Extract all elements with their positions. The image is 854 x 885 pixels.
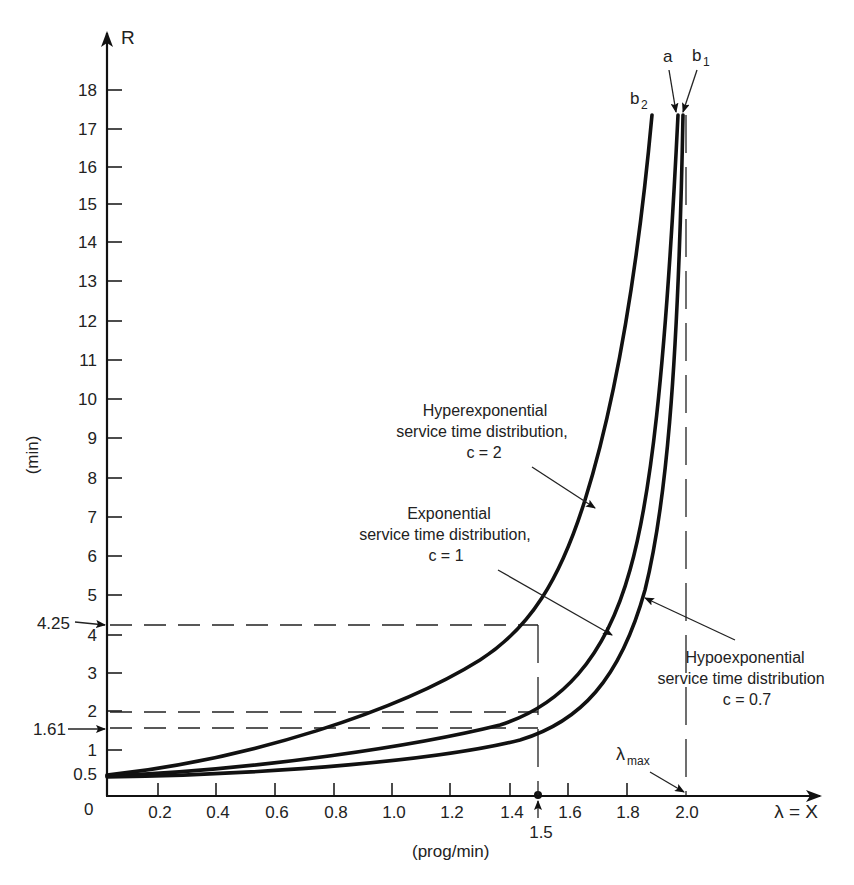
svg-text:λ: λ	[616, 744, 625, 764]
y-tick-labels: 18 17 16 15 14 13 12 11 10 9 8 7 6 5 4 3…	[73, 81, 97, 784]
svg-text:15: 15	[78, 195, 97, 214]
svg-text:0.8: 0.8	[324, 803, 348, 822]
svg-text:c = 2: c = 2	[466, 444, 501, 461]
x-tick-labels: 0.2 0.4 0.6 0.8 1.0 1.2 1.4 1.6 1.8 2.0	[148, 803, 699, 822]
svg-text:1.6: 1.6	[558, 803, 582, 822]
svg-text:c = 0.7: c = 0.7	[723, 691, 772, 708]
curve-label-a: a	[663, 47, 676, 112]
svg-text:1.4: 1.4	[500, 803, 524, 822]
svg-text:Exponential: Exponential	[407, 505, 491, 522]
y-axis-label: R	[121, 27, 135, 48]
svg-text:2: 2	[88, 702, 97, 721]
svg-text:10: 10	[78, 390, 97, 409]
svg-text:3: 3	[88, 664, 97, 683]
svg-text:16: 16	[78, 158, 97, 177]
svg-text:14: 14	[78, 233, 97, 252]
svg-text:0.2: 0.2	[148, 803, 172, 822]
y-marker-1-61: 1.61	[33, 720, 105, 739]
curve-label-b2: b 2	[630, 89, 648, 112]
svg-text:0.6: 0.6	[265, 803, 289, 822]
y-axis-units: (min)	[23, 436, 42, 475]
response-time-chart: R (min) λ = X (prog/min) 0 18 17 16 15 1…	[0, 0, 854, 885]
x-axis-label: λ = X	[774, 801, 818, 822]
svg-text:1: 1	[703, 55, 710, 69]
x-ticks	[158, 783, 627, 796]
svg-text:13: 13	[78, 272, 97, 291]
svg-text:1.5: 1.5	[529, 823, 553, 842]
svg-text:1: 1	[88, 741, 97, 760]
curve-hyperexponential-b2	[107, 115, 652, 775]
x-marker-1-5: 1.5	[529, 791, 553, 842]
svg-text:7: 7	[88, 508, 97, 527]
origin-label: 0	[84, 800, 93, 819]
svg-text:0.5: 0.5	[73, 765, 97, 784]
svg-text:4: 4	[88, 626, 97, 645]
annotation-lambda-max: λ max	[616, 744, 684, 792]
svg-text:1.61: 1.61	[33, 720, 66, 739]
svg-text:11: 11	[79, 351, 97, 370]
svg-text:1.2: 1.2	[440, 803, 464, 822]
svg-text:2: 2	[641, 98, 648, 112]
svg-text:9: 9	[88, 429, 97, 448]
curves	[107, 115, 683, 777]
curve-hypoexponential-b1	[107, 115, 683, 777]
annotation-hyperexponential: Hyperexponential service time distributi…	[396, 402, 595, 508]
svg-text:5: 5	[88, 586, 97, 605]
x-axis-units: (prog/min)	[412, 842, 489, 861]
svg-text:Hypoexponential: Hypoexponential	[685, 649, 804, 666]
svg-text:Hyperexponential: Hyperexponential	[423, 402, 548, 419]
svg-text:18: 18	[78, 81, 97, 100]
svg-text:service time distribution,: service time distribution,	[359, 526, 531, 543]
curve-exponential-a	[107, 115, 678, 776]
svg-text:12: 12	[78, 312, 97, 331]
svg-text:service time distribution,: service time distribution,	[396, 423, 568, 440]
svg-text:1.0: 1.0	[382, 803, 406, 822]
svg-text:2.0: 2.0	[675, 803, 699, 822]
svg-text:c = 1: c = 1	[428, 547, 463, 564]
svg-text:service time distribution: service time distribution	[657, 670, 824, 687]
svg-text:8: 8	[88, 469, 97, 488]
annotation-hypoexponential: Hypoexponential service time distributio…	[645, 598, 825, 708]
svg-text:17: 17	[78, 120, 97, 139]
svg-text:0.4: 0.4	[206, 803, 230, 822]
svg-text:6: 6	[88, 547, 97, 566]
svg-text:max: max	[627, 754, 650, 768]
curve-label-b1: b 1	[683, 46, 710, 112]
y-ticks	[107, 90, 122, 750]
svg-text:b: b	[630, 89, 639, 108]
svg-text:b: b	[692, 46, 701, 65]
svg-text:4.25: 4.25	[37, 614, 70, 633]
svg-text:a: a	[663, 47, 673, 66]
svg-text:1.8: 1.8	[616, 803, 640, 822]
annotation-exponential: Exponential service time distribution, c…	[359, 505, 612, 635]
